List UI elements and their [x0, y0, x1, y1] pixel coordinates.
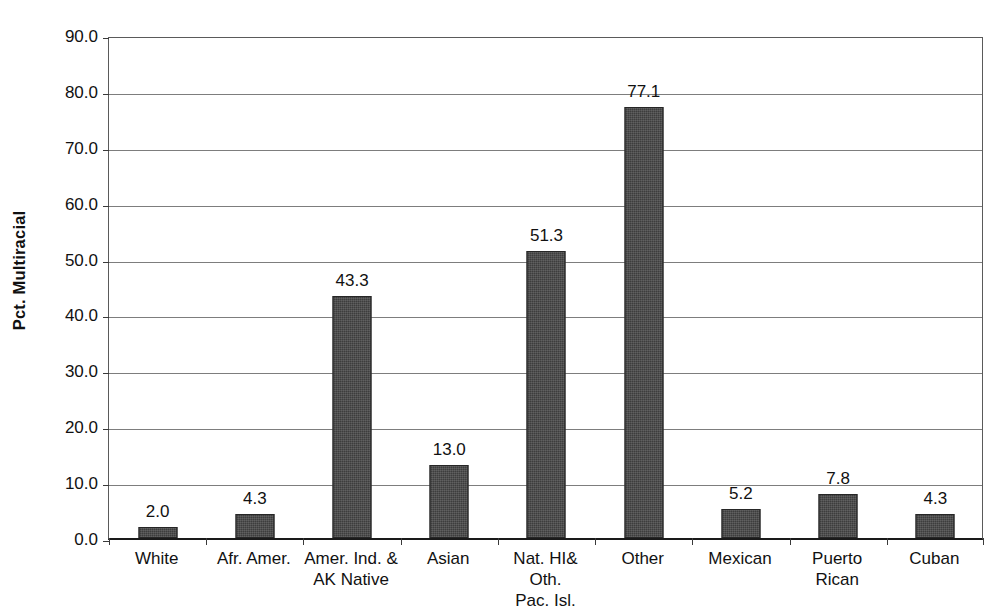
x-tick-mark — [692, 538, 693, 545]
bar-group: 77.1 — [595, 38, 692, 538]
y-tick-label: 20.0 — [65, 418, 98, 438]
x-category-label: Amer. Ind. &AK Native — [302, 548, 399, 590]
bar[interactable] — [916, 514, 955, 538]
x-tick-mark — [983, 538, 984, 545]
x-category-label: Cuban — [886, 548, 983, 569]
x-tick-mark — [790, 538, 791, 545]
x-category-label: White — [108, 548, 205, 569]
bar[interactable] — [721, 509, 760, 538]
bar[interactable] — [527, 251, 566, 538]
y-tick-label: 90.0 — [65, 27, 98, 47]
y-tick-label: 60.0 — [65, 195, 98, 215]
bar-value-label: 4.3 — [924, 489, 948, 509]
y-axis-title: Pct. Multiracial — [0, 0, 40, 540]
bar[interactable] — [430, 465, 469, 538]
x-category-label-line: Other — [594, 548, 691, 569]
bar[interactable] — [624, 107, 663, 538]
x-category-label: Puerto Rican — [789, 548, 886, 590]
x-tick-mark — [498, 538, 499, 545]
y-axis-title-text: Pct. Multiracial — [11, 210, 30, 330]
bar-value-label: 7.8 — [826, 469, 850, 489]
bar[interactable] — [138, 527, 177, 538]
x-tick-mark — [206, 538, 207, 545]
y-axis-tick-labels: 90.080.070.060.050.040.030.020.010.00.0 — [40, 0, 106, 616]
x-tick-mark — [303, 538, 304, 545]
bar-value-label: 4.3 — [243, 489, 267, 509]
bar-group: 13.0 — [401, 38, 498, 538]
bar[interactable] — [235, 514, 274, 538]
bar[interactable] — [333, 296, 372, 538]
x-category-label-line: White — [108, 548, 205, 569]
x-category-label-line: AK Native — [302, 569, 399, 590]
bar-chart: Pct. Multiracial 90.080.070.060.050.040.… — [0, 0, 1005, 616]
bar-group: 2.0 — [109, 38, 206, 538]
x-category-label-line: Pac. Isl. — [497, 590, 594, 611]
bar-value-label: 5.2 — [729, 484, 753, 504]
bar-value-label: 51.3 — [530, 226, 563, 246]
y-tick-label: 10.0 — [65, 474, 98, 494]
bar-group: 4.3 — [206, 38, 303, 538]
bar-group: 7.8 — [790, 38, 887, 538]
x-category-label-line: Nat. HI& Oth. — [497, 548, 594, 590]
x-category-label-line: Puerto Rican — [789, 548, 886, 590]
y-tick-label: 0.0 — [74, 530, 98, 550]
x-category-label: Nat. HI& Oth.Pac. Isl. — [497, 548, 594, 611]
bar-value-label: 13.0 — [433, 440, 466, 460]
y-tick-label: 50.0 — [65, 251, 98, 271]
y-tick-label: 70.0 — [65, 139, 98, 159]
plot-area: 2.04.343.313.051.377.15.27.84.3 — [108, 37, 983, 540]
x-axis-tick-labels: WhiteAfr. Amer.Amer. Ind. &AK NativeAsia… — [108, 548, 983, 608]
x-category-label: Other — [594, 548, 691, 569]
y-tick-label: 40.0 — [65, 306, 98, 326]
x-tick-mark — [401, 538, 402, 545]
bar-value-label: 2.0 — [146, 502, 170, 522]
x-category-label-line: Cuban — [886, 548, 983, 569]
x-category-label: Mexican — [691, 548, 788, 569]
x-tick-mark — [887, 538, 888, 545]
bar-group: 43.3 — [303, 38, 400, 538]
bar[interactable] — [819, 494, 858, 538]
bar-group: 4.3 — [887, 38, 984, 538]
x-category-label-line: Mexican — [691, 548, 788, 569]
x-category-label: Asian — [400, 548, 497, 569]
y-tick-label: 30.0 — [65, 362, 98, 382]
x-tick-mark — [109, 538, 110, 545]
x-category-label: Afr. Amer. — [205, 548, 302, 569]
x-tick-mark — [595, 538, 596, 545]
y-tick-label: 80.0 — [65, 83, 98, 103]
bar-value-label: 77.1 — [627, 82, 660, 102]
bar-group: 5.2 — [692, 38, 789, 538]
x-category-label-line: Asian — [400, 548, 497, 569]
bar-value-label: 43.3 — [336, 271, 369, 291]
bar-group: 51.3 — [498, 38, 595, 538]
x-category-label-line: Amer. Ind. & — [302, 548, 399, 569]
x-category-label-line: Afr. Amer. — [205, 548, 302, 569]
